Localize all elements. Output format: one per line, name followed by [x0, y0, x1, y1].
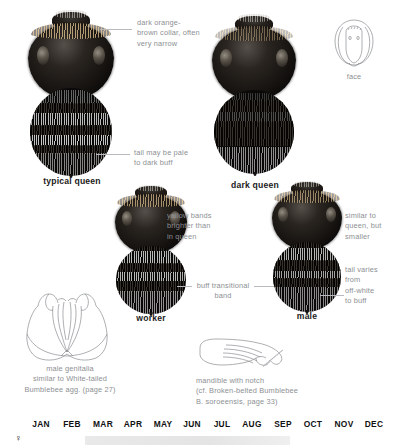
month-label-mar: MAR — [93, 419, 113, 429]
leader-line-male-tail — [320, 295, 344, 296]
bee-tail-tip — [254, 172, 257, 176]
month-label-jul: JUL — [214, 419, 231, 429]
face-clypeus — [346, 26, 362, 63]
month-label-may: MAY — [154, 419, 173, 429]
caption-male: male — [263, 311, 351, 321]
genitalia-hook-left — [38, 294, 58, 306]
bee-abdomen — [214, 90, 294, 174]
face-hair-1 — [348, 28, 349, 30]
bee-eye-left — [278, 207, 288, 222]
abdomen-band-buff-transitional — [116, 291, 186, 314]
face-ocellus-left — [349, 36, 351, 39]
annotation-tail: tail may be pale to dark buff — [134, 148, 218, 169]
annotation-male-similar: similar to queen, but smaller — [345, 211, 401, 242]
annotation-buff-band: buff transitional band — [192, 281, 254, 302]
label-face: face — [326, 72, 382, 82]
bee-collar-band — [274, 190, 340, 203]
abdomen-band-dark-2 — [214, 121, 294, 146]
face-hair-4 — [357, 27, 358, 29]
face-eye-left — [338, 27, 350, 64]
genitalia-cap-left — [58, 299, 66, 301]
bee-illustration-dark-queen — [207, 16, 303, 176]
month-label-oct: OCT — [304, 419, 323, 429]
bee-eye-right — [276, 49, 288, 68]
genitalia-mid-left — [63, 302, 66, 340]
leader-line-collar — [100, 29, 132, 30]
bumblebee-identification-plate: typical queen dark orange- brown collar,… — [0, 0, 402, 445]
leader-line-tail — [96, 154, 130, 155]
caption-typical-queen: typical queen — [20, 176, 124, 186]
bee-abdomen — [30, 88, 112, 176]
month-label-apr: APR — [124, 419, 143, 429]
abdomen-band-buff-2 — [30, 113, 112, 126]
bee-eye-left — [220, 49, 232, 68]
annotation-male-tail: tail varies from off-white to buff — [345, 265, 401, 307]
phenology-row-symbol-queen: ♀ — [15, 434, 22, 443]
bee-collar-band — [117, 194, 185, 207]
diagram-mandible — [196, 336, 296, 374]
face-mandibles — [349, 63, 359, 66]
bee-thorax — [272, 191, 342, 249]
bee-eye-left — [122, 211, 132, 226]
bee-abdomen — [116, 246, 186, 314]
phenology-month-axis: JAN FEB MAR APR MAY JUN JUL AUG SEP OCT … — [0, 419, 402, 431]
face-eye-right — [358, 27, 370, 64]
genitalia-volsella-right — [81, 294, 88, 310]
abdomen-tail-band — [30, 153, 112, 176]
month-label-feb: FEB — [63, 419, 81, 429]
face-ocellus-right — [357, 36, 359, 39]
label-mandible: mandible with notch (cf. Broken-belted B… — [196, 376, 356, 407]
bee-thorax — [212, 27, 296, 99]
bee-collar-band — [215, 26, 294, 42]
bee-eye-left — [37, 46, 49, 65]
face-hair-2 — [351, 27, 352, 29]
face-outline — [335, 20, 373, 65]
label-male-genitalia: male genitalia similar to White-tailed B… — [6, 364, 134, 395]
abdomen-tail-band — [214, 147, 294, 174]
diagram-male-genitalia — [12, 288, 122, 364]
month-label-nov: NOV — [334, 419, 353, 429]
bee-abdomen — [273, 242, 341, 312]
genitalia-mid-right — [68, 302, 71, 340]
month-label-jan: JAN — [32, 419, 50, 429]
abdomen-tail-band — [273, 287, 341, 312]
abdomen-band-dark-1 — [214, 100, 294, 112]
bee-collar-band — [31, 23, 112, 39]
diagram-face — [330, 18, 378, 70]
genitalia-volsella-left — [46, 294, 53, 310]
phenology-bar-queen — [85, 436, 290, 445]
month-label-sep: SEP — [274, 419, 292, 429]
mandible-ridge-4 — [223, 357, 253, 363]
abdomen-band-yellow-1 — [273, 248, 341, 261]
bee-illustration-worker — [110, 186, 192, 316]
genitalia-hook-right — [76, 294, 96, 306]
month-label-dec: DEC — [365, 419, 384, 429]
leader-line-buff-band-left — [177, 286, 192, 287]
face-hair-3 — [354, 27, 355, 29]
genitalia-cap-right — [68, 299, 76, 301]
month-label-aug: AUG — [242, 419, 262, 429]
mandible-notch — [256, 357, 266, 359]
bee-eye-right — [326, 207, 336, 222]
bee-thorax — [28, 24, 114, 98]
abdomen-band-buff-1 — [30, 90, 112, 104]
month-label-jun: JUN — [183, 419, 201, 429]
genitalia-base-arc — [27, 334, 107, 356]
abdomen-band-yellow-1 — [116, 251, 186, 263]
abdomen-band-dark-1 — [273, 260, 341, 271]
annotation-yellow-bands: yellow bands brighter than in queen — [167, 211, 247, 242]
bee-eye-right — [93, 46, 105, 65]
